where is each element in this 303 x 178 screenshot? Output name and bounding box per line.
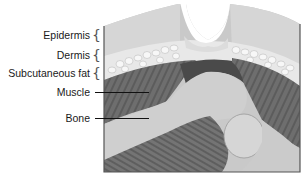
label-epidermis: Epidermis (43, 29, 90, 41)
label-dermis: Dermis (57, 49, 90, 61)
leader-line-muscle (95, 92, 149, 93)
leader-line-bone (95, 118, 149, 119)
brace-dermis: { (92, 48, 101, 62)
label-muscle: Muscle (57, 86, 90, 98)
brace-epidermis: { (92, 28, 101, 42)
label-subcutaneous-fat: Subcutaneous fat (8, 67, 90, 79)
label-bone: Bone (65, 112, 90, 124)
skin-cross-section-illustration (0, 0, 303, 178)
brace-subcutaneous-fat: { (92, 66, 101, 80)
